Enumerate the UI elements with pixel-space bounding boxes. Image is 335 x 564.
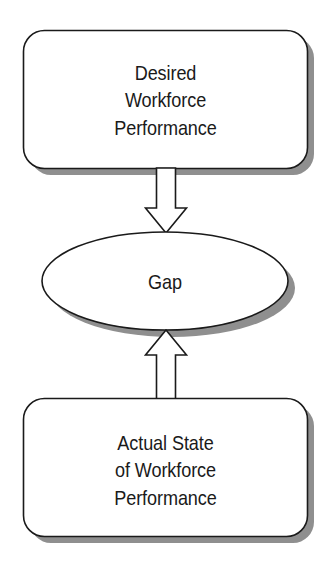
gap-label: Gap xyxy=(59,268,271,295)
diagram-canvas: Desired Workforce Performance Gap Actual… xyxy=(0,0,335,564)
actual-state-of-workforce-performance-label: Actual State of Workforce Performance xyxy=(43,429,288,511)
desired-workforce-performance-label: Desired Workforce Performance xyxy=(43,59,288,141)
arrow-down-desired-to-gap xyxy=(146,168,187,233)
arrow-up-actual-to-gap xyxy=(146,330,187,399)
